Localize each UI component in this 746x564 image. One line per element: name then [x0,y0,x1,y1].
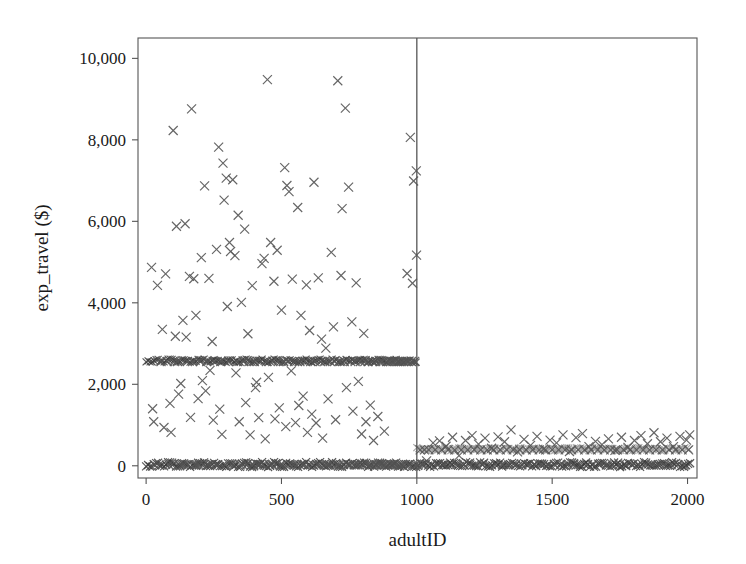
data-point-marker [165,399,174,408]
data-point-marker [212,245,221,254]
data-point-marker [636,431,645,440]
data-point-marker [269,277,278,286]
data-point-marker [178,316,187,325]
data-point-marker [159,423,168,432]
data-point-marker [197,253,206,262]
data-point-marker [174,390,183,399]
data-point-marker [406,133,415,142]
data-point-marker [246,430,255,439]
data-point-marker [186,413,195,422]
data-point-marker [204,274,213,283]
data-point-marker [373,412,382,421]
data-point-marker [314,273,323,282]
data-point-marker [369,436,378,445]
data-point-marker [280,163,289,172]
data-point-marker [352,278,361,287]
data-point-marker [172,222,181,231]
data-point-marker [448,433,457,442]
data-point-marker [187,104,196,113]
x-tick-label: 1500 [535,490,569,509]
data-point-marker [215,405,224,414]
data-point-marker [291,418,300,427]
y-tick-label: 10,000 [79,49,126,68]
left-group-scatter [147,75,421,469]
data-point-marker [191,311,200,320]
y-tick-label: 2,000 [88,375,126,394]
data-point-marker [149,417,158,426]
data-point-marker [235,417,244,426]
data-point-marker [312,419,321,428]
data-point-marker [303,428,312,437]
data-point-marker [222,174,231,183]
data-point-marker [533,432,542,441]
data-point-marker [228,175,237,184]
data-point-marker [507,425,516,434]
data-point-marker [293,203,302,212]
data-point-marker [158,325,167,334]
data-point-marker [273,246,282,255]
data-point-marker [153,281,162,290]
data-point-marker [240,225,249,234]
data-point-marker [206,366,215,375]
data-point-marker [214,143,223,152]
data-point-marker [182,333,191,342]
x-tick-label: 500 [269,490,295,509]
y-tick-label: 4,000 [88,294,126,313]
data-point-marker [217,430,226,439]
data-point-marker [161,269,170,278]
data-point-marker [344,183,353,192]
y-axis-title: exp_travel ($) [31,204,53,311]
data-point-marker [357,430,366,439]
data-point-marker [296,311,305,320]
data-point-marker [494,432,503,441]
data-point-marker [461,436,470,445]
y-tick-label: 8,000 [88,131,126,150]
x-tick-label: 1000 [400,490,434,509]
data-point-marker [341,104,350,113]
data-point-marker [225,238,234,247]
data-point-marker [277,306,286,315]
data-point-marker [148,404,157,413]
data-point-marker [348,407,357,416]
data-point-marker [147,263,156,272]
data-point-marker [266,238,275,247]
data-point-marker [327,248,336,257]
data-point-marker [331,415,340,424]
data-point-marker [169,126,178,135]
data-point-marker [435,436,444,445]
data-point-marker [270,414,279,423]
y-tick-label: 0 [118,457,127,476]
data-point-marker [342,383,351,392]
x-tick-label: 0 [142,490,151,509]
x-axis-title: adultID [388,529,446,550]
data-point-marker [243,329,252,338]
data-point-marker [604,434,613,443]
data-point-marker [220,196,229,205]
data-point-marker [354,377,363,386]
data-point-marker [366,401,375,410]
data-point-marker [288,275,297,284]
data-point-marker [181,219,190,228]
data-point-marker [176,379,185,388]
data-point-marker [307,410,316,419]
data-point-marker [617,433,626,442]
data-point-marker [305,326,314,335]
data-point-marker [189,274,198,283]
data-point-marker [194,394,203,403]
data-point-marker [337,271,346,280]
data-point-marker [324,394,333,403]
data-point-marker [481,434,490,443]
data-point-marker [231,368,240,377]
data-point-marker [649,428,658,437]
data-point-marker [329,322,338,331]
data-point-marker [237,298,246,307]
data-point-marker [299,392,308,401]
data-point-marker [347,317,356,326]
data-point-marker [333,76,342,85]
data-point-marker [468,431,477,440]
data-point-marker [359,329,368,338]
data-point-marker [254,413,263,422]
y-tick-label: 6,000 [88,212,126,231]
data-point-marker [321,344,330,353]
data-point-marker [500,437,509,446]
